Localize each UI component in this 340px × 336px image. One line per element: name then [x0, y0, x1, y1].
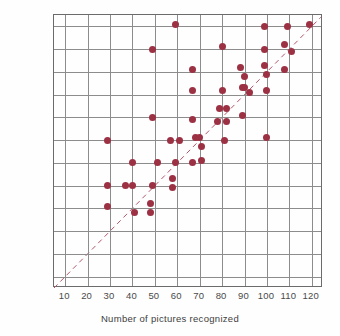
scatter-plot-figure: Number of words recalled Number of pictu… — [0, 0, 340, 336]
gridline-vertical — [132, 15, 133, 286]
data-point — [154, 159, 161, 166]
trend-line — [54, 15, 323, 288]
gridline-horizontal — [54, 117, 321, 118]
data-point — [167, 137, 174, 144]
gridline-horizontal — [54, 163, 321, 164]
gridline-horizontal — [54, 186, 321, 187]
data-point — [237, 64, 244, 71]
gridline-vertical — [222, 15, 223, 286]
gridline-horizontal — [54, 277, 321, 278]
data-point — [176, 137, 183, 144]
gridline-vertical — [267, 15, 268, 286]
data-point — [261, 46, 268, 53]
data-point — [306, 21, 313, 28]
gridline-vertical — [155, 15, 156, 286]
gridline-horizontal — [54, 26, 321, 27]
gridline-vertical — [110, 15, 111, 286]
data-point — [221, 137, 228, 144]
data-point — [261, 62, 268, 69]
data-point — [288, 48, 295, 55]
gridline-vertical — [245, 15, 246, 286]
gridline-horizontal — [54, 208, 321, 209]
data-point — [223, 105, 230, 112]
data-point — [104, 137, 111, 144]
data-point — [149, 46, 156, 53]
x-axis-label: Number of pictures recognized — [0, 313, 340, 324]
gridline-horizontal — [54, 140, 321, 141]
gridline-horizontal — [54, 231, 321, 232]
data-point — [241, 73, 248, 80]
gridline-vertical — [289, 15, 290, 286]
data-point — [239, 112, 246, 119]
data-point — [246, 89, 253, 96]
gridline-horizontal — [54, 49, 321, 50]
data-point — [104, 203, 111, 210]
gridline-vertical — [200, 15, 201, 286]
gridline-horizontal — [54, 254, 321, 255]
gridline-vertical — [65, 15, 66, 286]
data-point — [219, 43, 226, 50]
gridline-horizontal — [54, 95, 321, 96]
data-point — [172, 159, 179, 166]
identity-reference-line — [54, 17, 321, 288]
gridline-vertical — [88, 15, 89, 286]
gridline-vertical — [312, 15, 313, 286]
x-axis-tick-label: 120 — [291, 290, 331, 301]
gridline-vertical — [177, 15, 178, 286]
data-point — [219, 87, 226, 94]
gridline-horizontal — [54, 72, 321, 73]
data-point — [284, 23, 291, 30]
data-point — [149, 114, 156, 121]
data-point — [172, 21, 179, 28]
plot-area — [53, 14, 322, 287]
